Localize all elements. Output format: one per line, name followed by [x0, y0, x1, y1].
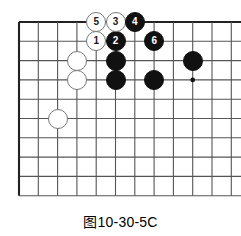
black-stone-2-label: 2	[113, 36, 118, 46]
board-star-points	[190, 78, 195, 83]
go-diagram-figure: 123456 图10-30-5C	[0, 0, 241, 236]
black-stone-b	[106, 70, 126, 90]
black-stone-a	[106, 51, 126, 71]
hoshi-right-point	[190, 78, 195, 83]
figure-caption: 图10-30-5C	[0, 206, 241, 236]
black-stone-d	[183, 51, 203, 71]
white-stone-1-label: 1	[94, 36, 99, 46]
white-stone-3-label: 3	[113, 17, 118, 27]
white-stone-a	[67, 51, 87, 71]
white-stone-c	[48, 109, 68, 129]
white-stone-5-label: 5	[94, 17, 99, 27]
board-grid	[19, 22, 241, 196]
black-stone-4: 4	[125, 12, 145, 32]
black-stone-4-label: 4	[132, 17, 137, 27]
black-stone-c	[144, 70, 164, 90]
black-stone-6-label: 6	[151, 36, 156, 46]
black-stone-2: 2	[106, 31, 126, 51]
white-stone-b	[67, 70, 87, 90]
white-stone-3: 3	[106, 12, 126, 32]
